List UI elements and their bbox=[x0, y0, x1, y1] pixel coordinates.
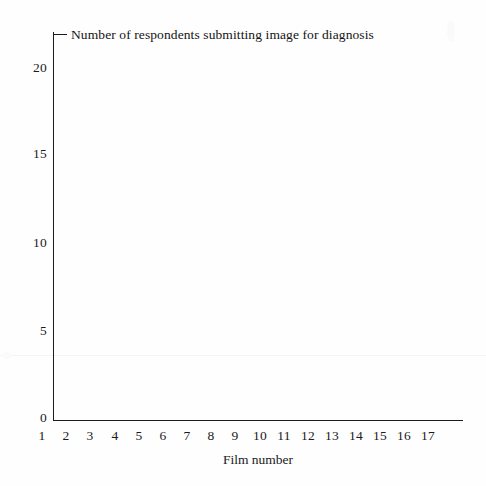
y-axis-tick-labels: 20 15 10 5 0 bbox=[0, 0, 47, 486]
x-tick-label: 12 bbox=[296, 428, 320, 443]
x-tick-label: 9 bbox=[223, 428, 247, 443]
x-tick-label: 1 bbox=[30, 428, 54, 443]
x-axis-title: Film number bbox=[53, 452, 463, 468]
x-tick-label: 2 bbox=[54, 428, 78, 443]
plot-area bbox=[54, 32, 463, 420]
x-tick-label: 17 bbox=[416, 428, 440, 443]
x-tick-label: 8 bbox=[199, 428, 223, 443]
x-axis-line bbox=[53, 420, 463, 421]
x-tick-label: 14 bbox=[344, 428, 368, 443]
y-tick-label: 15 bbox=[5, 147, 47, 161]
y-tick-label: 5 bbox=[5, 324, 47, 338]
x-tick-label: 4 bbox=[103, 428, 127, 443]
x-tick-label: 11 bbox=[272, 428, 296, 443]
x-tick-label: 3 bbox=[78, 428, 102, 443]
y-tick-label: 20 bbox=[5, 61, 47, 75]
chart-figure: Number of respondents submitting image f… bbox=[0, 0, 486, 486]
x-tick-label: 6 bbox=[151, 428, 175, 443]
x-tick-label: 15 bbox=[368, 428, 392, 443]
y-tick-label: 0 bbox=[5, 411, 47, 425]
x-tick-label: 10 bbox=[248, 428, 272, 443]
y-tick-label: 10 bbox=[5, 236, 47, 250]
x-tick-label: 13 bbox=[320, 428, 344, 443]
x-tick-label: 7 bbox=[175, 428, 199, 443]
x-tick-label: 16 bbox=[392, 428, 416, 443]
x-tick-label: 5 bbox=[127, 428, 151, 443]
